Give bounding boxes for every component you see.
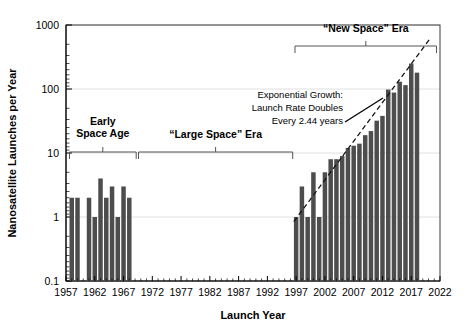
bar: [328, 159, 332, 281]
x-tick-label: 1982: [198, 286, 222, 298]
bar: [380, 116, 384, 281]
bar: [374, 121, 378, 281]
bar: [121, 186, 125, 281]
x-tick-label: 1992: [256, 286, 280, 298]
x-tick-label: 2007: [342, 286, 366, 298]
era-label: Early: [90, 115, 116, 127]
bar: [104, 198, 108, 281]
bar: [317, 217, 321, 281]
bar: [409, 64, 413, 281]
bar: [311, 172, 315, 281]
bar: [351, 146, 355, 281]
bar: [415, 73, 419, 281]
y-tick-label: 1: [53, 211, 59, 223]
x-tick-label: 1997: [284, 286, 308, 298]
bar: [397, 82, 401, 281]
y-tick-label: 0.1: [44, 275, 59, 287]
bar: [75, 198, 79, 281]
annotation-line-1: Exponential Growth:: [257, 89, 343, 100]
bar: [87, 198, 91, 281]
x-tick-label: 1962: [83, 286, 107, 298]
annotation-line-3: Every 2.44 years: [272, 115, 344, 126]
chart-svg: 1957196219671972197719821987199219972002…: [0, 0, 466, 326]
bar: [369, 131, 373, 281]
era-label: “Large Space” Era: [169, 128, 262, 140]
bar: [305, 217, 309, 281]
bar: [300, 186, 304, 281]
x-tick-label: 2002: [313, 286, 337, 298]
y-tick-label: 100: [41, 83, 59, 95]
x-tick-label: 2012: [371, 286, 395, 298]
x-axis-title: Launch Year: [220, 309, 286, 321]
bar: [357, 144, 361, 281]
x-tick-label: 2022: [428, 286, 452, 298]
bar: [392, 93, 396, 281]
x-tick-label: 1972: [141, 286, 165, 298]
x-tick-label: 1967: [112, 286, 136, 298]
annotation-line-2: Launch Rate Doubles: [252, 102, 344, 113]
x-tick-label: 1957: [54, 286, 78, 298]
bar: [334, 159, 338, 281]
y-tick-label: 10: [47, 147, 59, 159]
bar: [294, 217, 298, 281]
bar: [386, 90, 390, 281]
nanosatellite-launches-chart: 1957196219671972197719821987199219972002…: [0, 0, 466, 326]
bar: [98, 178, 102, 281]
bar: [403, 85, 407, 281]
bar: [363, 135, 367, 281]
y-axis-title: Nanosatellite Launches per Year: [6, 68, 18, 238]
x-tick-label: 2017: [400, 286, 424, 298]
x-tick-label: 1987: [227, 286, 251, 298]
era-label: Space Age: [76, 127, 129, 139]
bar: [93, 217, 97, 281]
bar: [116, 217, 120, 281]
bar: [346, 148, 350, 281]
x-tick-label: 1977: [169, 286, 193, 298]
bar: [127, 198, 131, 281]
bar: [340, 156, 344, 281]
bar: [110, 186, 114, 281]
era-label: “New Space” Era: [323, 22, 409, 34]
y-tick-label: 1000: [36, 19, 60, 31]
bar: [323, 172, 327, 281]
bar: [70, 198, 74, 281]
